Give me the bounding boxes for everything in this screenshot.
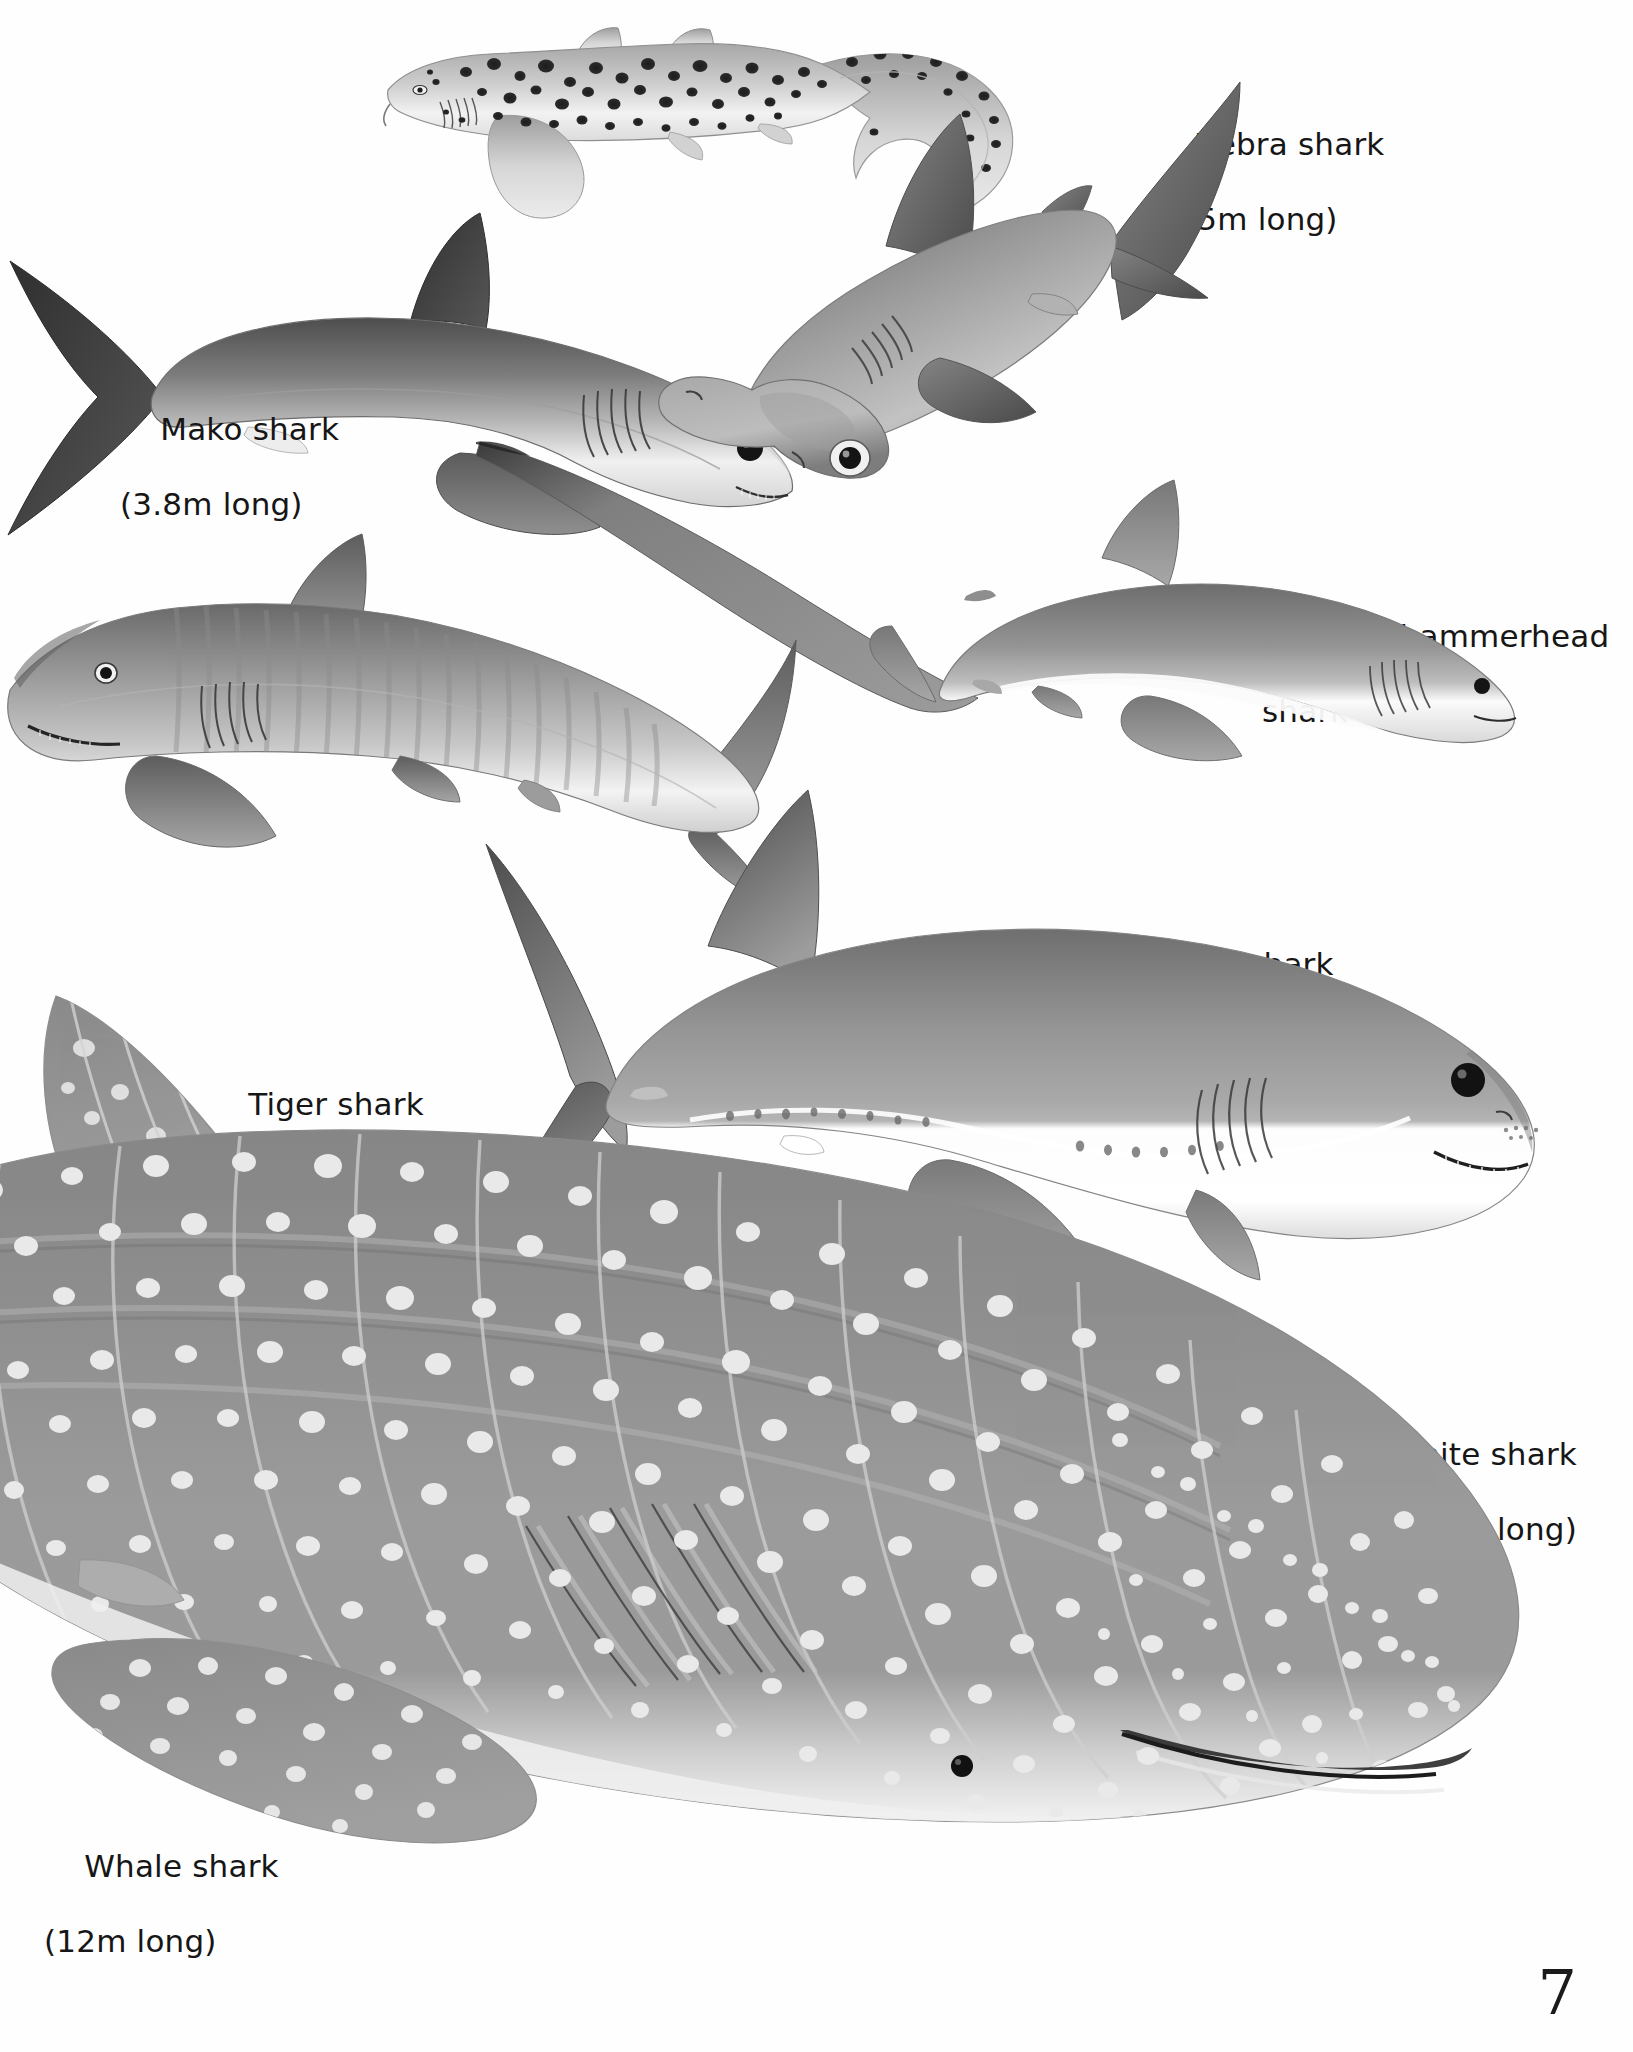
illustration-page: Zebra shark (3.5m long)	[0, 0, 1633, 2052]
label-mako-name: Mako shark	[160, 411, 339, 447]
label-whale-size: (12m long)	[44, 1923, 279, 1961]
label-whale-shark: Whale shark (12m long)	[44, 1810, 279, 2037]
label-whale-name: Whale shark	[84, 1848, 279, 1884]
page-number: 7	[1538, 1962, 1577, 2024]
hammerhead-shark-illustration	[640, 60, 1270, 490]
label-mako-size: (3.8m long)	[120, 486, 339, 524]
